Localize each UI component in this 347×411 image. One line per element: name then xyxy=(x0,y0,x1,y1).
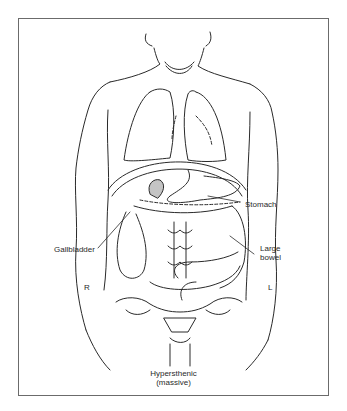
label-right: R xyxy=(84,283,90,292)
body-outline xyxy=(75,82,278,370)
caption-line-2: (massive) xyxy=(0,378,347,387)
figure-caption: Hypersthenic (massive) xyxy=(0,369,347,387)
neck-outline xyxy=(110,32,250,84)
spine xyxy=(168,222,192,278)
label-left: L xyxy=(268,283,272,292)
caption-line-1: Hypersthenic xyxy=(0,369,347,378)
label-gallbladder: Gallbladder xyxy=(54,245,95,254)
lungs xyxy=(124,89,226,162)
torso-illustration xyxy=(0,0,347,411)
large-bowel xyxy=(117,206,245,300)
label-stomach: Stomach xyxy=(245,200,277,209)
label-large-bowel-line1: Large xyxy=(260,244,280,253)
label-large-bowel-line2: bowel xyxy=(260,253,281,262)
pelvis xyxy=(116,298,242,366)
